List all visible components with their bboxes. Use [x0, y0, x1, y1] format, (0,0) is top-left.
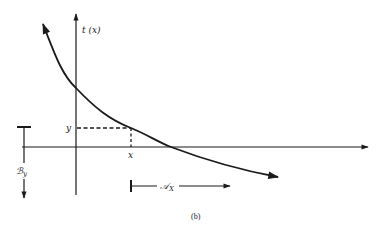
point-x-label: x [128, 150, 133, 160]
figure-caption: (b) [191, 212, 201, 221]
function-diagram: t (x) y x ℬy 𝒜X (b) [0, 0, 384, 228]
point-y-label: y [65, 123, 72, 133]
domain-set-subscript: X [168, 185, 175, 193]
function-curve [43, 24, 278, 177]
y-axis-label: t (x) [82, 25, 101, 35]
